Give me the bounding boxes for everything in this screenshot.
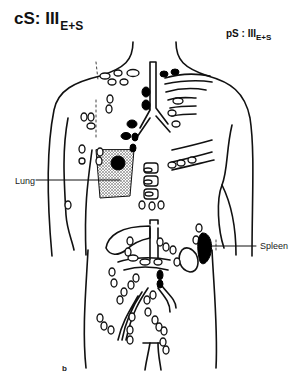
right-leg (158, 343, 161, 370)
left-leg (145, 343, 150, 370)
lung-label: Lung (15, 177, 35, 186)
right-flank (212, 250, 217, 368)
left-flank (84, 250, 88, 368)
spleen-organ (179, 248, 198, 272)
right-inner-arm-2 (222, 185, 236, 255)
involved-spleen (198, 233, 212, 264)
panel-label: b (62, 365, 67, 373)
staging-diagram: cS: IIIE+S pS : IIIE+S (0, 0, 302, 391)
left-inner-arm (64, 118, 74, 250)
left-inner-arm-2 (85, 150, 92, 255)
right-inner-arm (218, 125, 232, 248)
body-outline-figure (0, 0, 302, 391)
spleen-label: Spleen (260, 242, 288, 251)
iliac-right (158, 286, 176, 312)
